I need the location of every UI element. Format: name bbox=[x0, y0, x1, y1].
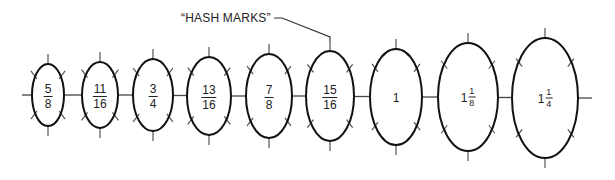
numerator: 13 bbox=[201, 84, 216, 98]
numerator: 5 bbox=[44, 83, 53, 97]
denominator: 8 bbox=[266, 98, 273, 111]
ellipse-size-label: 1516 bbox=[322, 81, 337, 111]
ellipse-size-label: 114 bbox=[538, 88, 553, 109]
ellipse-size-label: 1 bbox=[393, 89, 400, 105]
numerator: 1 bbox=[468, 87, 475, 98]
denominator: 8 bbox=[469, 98, 474, 108]
denominator: 16 bbox=[323, 98, 336, 111]
fraction: 14 bbox=[545, 88, 552, 109]
denominator: 4 bbox=[150, 97, 157, 110]
mixed-number: 114 bbox=[538, 88, 553, 109]
fraction: 1516 bbox=[322, 84, 337, 111]
whole-number: 1 bbox=[538, 92, 545, 104]
denominator: 4 bbox=[546, 99, 551, 109]
fraction: 34 bbox=[149, 83, 158, 110]
ellipse-size-label: 34 bbox=[149, 80, 158, 110]
denominator: 8 bbox=[45, 97, 52, 110]
fraction: 1116 bbox=[93, 83, 107, 110]
numerator: 7 bbox=[265, 84, 274, 98]
ellipse-size-label: 78 bbox=[265, 81, 274, 111]
fraction: 18 bbox=[468, 87, 475, 108]
fraction: 1316 bbox=[201, 84, 216, 111]
whole-number: 1 bbox=[393, 91, 400, 105]
whole-number: 1 bbox=[461, 91, 468, 103]
numerator: 1 bbox=[545, 88, 552, 99]
ellipse-size-label: 118 bbox=[461, 87, 476, 108]
numerator: 11 bbox=[93, 83, 107, 97]
numerator: 15 bbox=[322, 84, 337, 98]
fraction: 58 bbox=[44, 83, 53, 110]
hash-marks-annotation: “HASH MARKS” bbox=[181, 11, 271, 25]
annotation-leader-line bbox=[274, 18, 330, 41]
ellipse-size-label: 58 bbox=[44, 80, 53, 110]
denominator: 16 bbox=[202, 98, 215, 111]
denominator: 16 bbox=[93, 97, 106, 110]
numerator: 3 bbox=[149, 83, 158, 97]
ellipse-size-label: 1116 bbox=[93, 80, 107, 110]
hash-marks-diagram: 5811163413167815161118114 “HASH MARKS” bbox=[0, 0, 615, 180]
mixed-number: 118 bbox=[461, 87, 476, 108]
fraction: 78 bbox=[265, 84, 274, 111]
ellipse-size-label: 1316 bbox=[201, 81, 216, 111]
